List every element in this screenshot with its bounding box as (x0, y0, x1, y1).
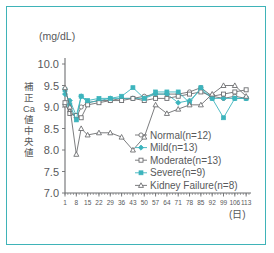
legend-label: Moderate(n=13) (150, 155, 221, 166)
marker-filled-square (199, 86, 203, 90)
marker-open-square (233, 90, 237, 94)
x-tick-label: 57 (152, 199, 160, 206)
y-axis-title-char-5: 央 (24, 136, 34, 147)
y-tick-label: 7.0 (44, 187, 59, 199)
marker-filled-square (79, 94, 83, 98)
y-axis-title: 補 正 Ca 値 中 央 値 (23, 81, 36, 158)
x-tick-label: 99 (220, 199, 228, 206)
y-axis-title-char-4: 中 (24, 125, 34, 136)
x-tick-label: 85 (197, 199, 205, 206)
x-tick-label: 22 (95, 199, 103, 206)
x-axis-unit-label: (日) (229, 209, 246, 220)
marker-filled-square (165, 90, 169, 94)
legend-item-3: Severe(n=9) (135, 167, 205, 178)
x-tick-label: 8 (75, 199, 79, 206)
marker-filled-diamond (138, 145, 143, 150)
marker-open-square (120, 99, 124, 103)
marker-open-triangle (232, 83, 237, 88)
chart-area: (mg/dL) 補 正 Ca 値 中 央 値 10.09.59.08.58.07… (7, 7, 267, 246)
y-axis-title-char-3: 値 (24, 114, 34, 125)
x-tick-label: 50 (141, 199, 149, 206)
y-axis-title-char-1: 正 (24, 92, 34, 103)
marker-filled-square (210, 96, 214, 100)
y-unit-label: (mg/dL) (39, 30, 75, 42)
marker-filled-square (74, 118, 78, 122)
marker-open-square (199, 90, 203, 94)
chart-legend: Normal(n=12)Mild(n=13)Moderate(n=13)Seve… (135, 130, 238, 191)
marker-open-triangle (119, 135, 124, 140)
x-tick-label: 64 (163, 199, 171, 206)
x-tick-label: 36 (118, 199, 126, 206)
marker-open-triangle (108, 130, 113, 135)
y-axis-title-char-0: 補 (24, 81, 34, 92)
y-tick-label: 8.5 (44, 123, 59, 135)
marker-open-square (86, 103, 90, 107)
marker-filled-square (108, 96, 112, 100)
marker-filled-square (142, 96, 146, 100)
line-chart: (mg/dL) 補 正 Ca 値 中 央 値 10.09.59.08.58.07… (7, 7, 267, 246)
legend-item-4: Kidney Failure(n=8) (135, 180, 238, 191)
marker-filled-square (139, 171, 143, 175)
marker-open-square (139, 158, 143, 162)
marker-open-square (131, 96, 135, 100)
y-tick-label: 10.0 (38, 58, 59, 70)
marker-filled-square (86, 99, 90, 103)
marker-open-square (244, 88, 248, 92)
marker-open-triangle (210, 92, 215, 97)
marker-open-triangle (176, 107, 181, 112)
marker-filled-square (222, 116, 226, 120)
marker-open-circle (139, 133, 143, 137)
marker-filled-square (233, 96, 237, 100)
marker-open-square (154, 96, 158, 100)
marker-filled-square (120, 94, 124, 98)
marker-filled-square (154, 90, 158, 94)
marker-filled-square (97, 96, 101, 100)
marker-filled-diamond (221, 96, 226, 101)
x-tick-label: 15 (84, 199, 92, 206)
marker-open-square (176, 94, 180, 98)
y-axis-title-char-6: 値 (24, 147, 34, 158)
y-tick-group: 10.09.59.08.58.07.57.0 (38, 58, 65, 199)
x-tick-label: 92 (209, 199, 217, 206)
legend-label: Mild(n=13) (150, 142, 198, 153)
marker-filled-square (176, 90, 180, 94)
marker-filled-square (131, 86, 135, 90)
marker-open-triangle (139, 183, 144, 188)
marker-open-triangle (164, 111, 169, 116)
legend-label: Normal(n=12) (150, 130, 211, 141)
marker-open-square (165, 96, 169, 100)
marker-open-triangle (96, 130, 101, 135)
legend-label: Kidney Failure(n=8) (150, 180, 238, 191)
marker-open-square (97, 101, 101, 105)
marker-open-square (188, 92, 192, 96)
marker-open-triangle (153, 102, 158, 107)
legend-item-2: Moderate(n=13) (135, 155, 221, 166)
y-tick-label: 7.5 (44, 166, 59, 178)
marker-open-square (63, 101, 67, 105)
y-tick-label: 8.0 (44, 144, 59, 156)
y-tick-label: 9.0 (44, 101, 59, 113)
marker-open-square (222, 92, 226, 96)
x-tick-label: 1 (63, 199, 67, 206)
y-axis-title-char-2: Ca (23, 103, 36, 114)
x-tick-label: 71 (175, 199, 183, 206)
x-tick-label: 29 (107, 199, 115, 206)
x-tick-label: 43 (129, 199, 137, 206)
marker-open-triangle (221, 83, 226, 88)
x-tick-label: 113 (241, 199, 252, 206)
marker-open-triangle (74, 152, 79, 157)
x-tick-label: 78 (186, 199, 194, 206)
marker-open-square (79, 116, 83, 120)
legend-item-1: Mild(n=13) (135, 142, 198, 153)
figure-frame: (mg/dL) 補 正 Ca 値 中 央 値 10.09.59.08.58.07… (6, 6, 266, 245)
x-tick-label: 106 (229, 199, 240, 206)
legend-label: Severe(n=9) (150, 167, 205, 178)
y-tick-label: 9.5 (44, 80, 59, 92)
marker-open-triangle (79, 126, 84, 131)
